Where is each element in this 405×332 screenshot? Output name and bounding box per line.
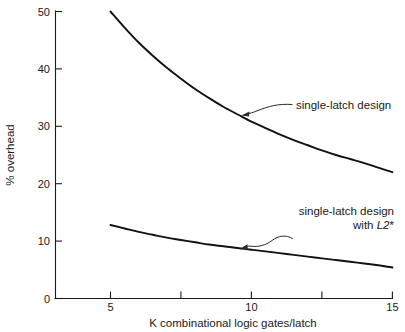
y-axis-title: % overhead bbox=[4, 124, 16, 185]
chart-canvas: 50 40 30 20 10 0 5 10 15 K combinational… bbox=[0, 0, 405, 332]
x-axis-tick-labels: 5 10 15 bbox=[107, 301, 398, 313]
y-axis-ticks bbox=[56, 12, 63, 299]
x-tick-label-5: 5 bbox=[107, 301, 113, 313]
y-tick-label-50: 50 bbox=[38, 6, 50, 18]
axis-lines bbox=[55, 11, 393, 299]
chart-figure: 50 40 30 20 10 0 5 10 15 K combinational… bbox=[0, 0, 405, 332]
x-axis-ticks bbox=[111, 292, 393, 299]
x-axis-title: K combinational logic gates/latch bbox=[149, 317, 317, 329]
annotation-lower-label-line1: single-latch design bbox=[299, 205, 394, 217]
x-tick-label-15: 15 bbox=[386, 301, 398, 313]
annotation-upper: single-latch design bbox=[241, 99, 391, 117]
y-axis-tick-labels: 50 40 30 20 10 0 bbox=[38, 6, 50, 305]
annotation-lower-line2-prefix: with bbox=[352, 219, 377, 231]
annotation-lower-leader bbox=[244, 236, 293, 247]
annotation-lower: single-latch design with L2* bbox=[240, 205, 395, 249]
annotation-upper-leader bbox=[245, 104, 292, 114]
x-tick-label-10: 10 bbox=[245, 301, 257, 313]
y-tick-label-0: 0 bbox=[44, 293, 50, 305]
annotation-lower-label-line2: with L2* bbox=[352, 219, 394, 231]
y-tick-label-40: 40 bbox=[38, 63, 50, 75]
y-tick-label-10: 10 bbox=[38, 235, 50, 247]
y-tick-label-30: 30 bbox=[38, 120, 50, 132]
annotation-lower-line2-italic: L2 bbox=[377, 219, 390, 231]
annotation-lower-line2-suffix: * bbox=[390, 219, 395, 231]
series-group bbox=[111, 12, 393, 268]
y-tick-label-20: 20 bbox=[38, 178, 50, 190]
annotation-lower-arrowhead bbox=[240, 244, 248, 249]
series-line-single-latch-design bbox=[111, 12, 393, 173]
annotation-upper-label: single-latch design bbox=[296, 99, 391, 111]
annotation-upper-arrowhead bbox=[241, 112, 249, 117]
